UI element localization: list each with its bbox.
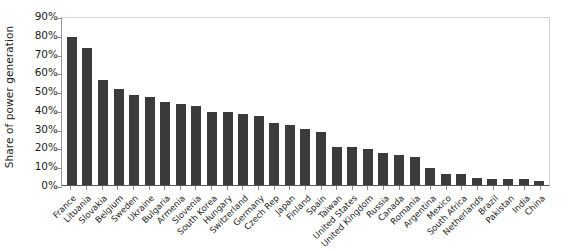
bar[interactable] [441,174,451,185]
bar-slot [438,18,454,185]
bar[interactable] [519,179,529,185]
x-axis-tick-mark [117,186,118,190]
bar-slot [111,18,127,185]
bar-slot [298,18,314,185]
y-axis-tick-mark [57,149,62,150]
bar-slot [173,18,189,185]
bar-slot [126,18,142,185]
bar-slot [189,18,205,185]
bar-slot [376,18,392,185]
bar-slot [157,18,173,185]
bar[interactable] [394,155,404,185]
bar-slot [235,18,251,185]
bar[interactable] [378,153,388,185]
x-axis-tick-mark [414,186,415,190]
bar-slot [142,18,158,185]
bar[interactable] [456,174,466,185]
x-axis-tick-mark [383,186,384,190]
bar[interactable] [503,179,513,185]
bar[interactable] [300,129,310,185]
bar-slot [329,18,345,185]
bar-slot [251,18,267,185]
bar-slot [516,18,532,185]
bar-slot [80,18,96,185]
y-axis-tick-mark [57,112,62,113]
y-axis-tick-mark [57,168,62,169]
y-axis-tick-labels: 90%80%70%60%50%40%30%20%10%0% [14,0,58,243]
y-axis-tick-label: 40% [14,105,58,116]
x-axis-tick-mark [258,186,259,190]
y-axis-tick-label: 70% [14,49,58,60]
bar[interactable] [332,147,342,185]
bar[interactable] [472,178,482,186]
bar-slot [282,18,298,185]
x-axis-tick-mark [461,186,462,190]
bar[interactable] [129,95,139,185]
bar-slot [344,18,360,185]
x-axis-tick-mark [195,186,196,190]
x-axis-tick-mark [493,186,494,190]
bar[interactable] [223,112,233,185]
y-axis-tick-label: 10% [14,161,58,172]
bar-slot [422,18,438,185]
bar[interactable] [285,125,295,185]
x-axis-tick-mark [446,186,447,190]
x-axis-tick-mark [477,186,478,190]
y-axis-tick-label: 0% [14,180,58,191]
bar[interactable] [410,157,420,185]
x-axis-tick-mark [242,186,243,190]
bar[interactable] [82,48,92,185]
bar[interactable] [67,37,77,185]
x-axis-tick-mark [211,186,212,190]
x-axis-tick-mark [274,186,275,190]
x-axis-tick-mark [524,186,525,190]
bar[interactable] [114,89,124,185]
x-axis-tick-mark [149,186,150,190]
bar[interactable] [254,116,264,185]
bar-slot [220,18,236,185]
bar-slot [469,18,485,185]
x-axis-tick-mark [102,186,103,190]
bar-slot [407,18,423,185]
bar-slot [485,18,501,185]
bar-slot [204,18,220,185]
x-axis-tick-mark [508,186,509,190]
bar[interactable] [425,168,435,185]
y-axis-tick-mark [57,56,62,57]
bar-slot [64,18,80,185]
bar[interactable] [347,147,357,185]
bar[interactable] [207,112,217,185]
y-axis-tick-mark [57,18,62,19]
bar-slot [391,18,407,185]
bar[interactable] [316,132,326,185]
bar[interactable] [363,149,373,185]
x-axis-tick-mark [289,186,290,190]
x-axis-tick-labels: FranceLituaniaSlovakiaBelgiumSwedenUkrai… [61,191,550,243]
x-axis-tick-mark [321,186,322,190]
x-axis-tick-mark [164,186,165,190]
bar-slot [360,18,376,185]
bar[interactable] [238,114,248,185]
y-axis-tick-label: 90% [14,11,58,22]
bar[interactable] [534,181,544,185]
bar-slot [313,18,329,185]
bar[interactable] [191,106,201,185]
bar-slot [267,18,283,185]
bar-series [62,18,549,185]
bar[interactable] [269,123,279,185]
x-axis-tick-mark [86,186,87,190]
x-axis-tick-mark [399,186,400,190]
bar[interactable] [487,179,497,185]
y-axis-tick-label: 30% [14,124,58,135]
bar[interactable] [176,104,186,185]
bar[interactable] [98,80,108,185]
bar-slot [531,18,547,185]
plot-area [61,17,550,186]
y-axis-tick-label: 20% [14,142,58,153]
y-axis-tick-mark [57,74,62,75]
y-axis-tick-label: 80% [14,30,58,41]
bar[interactable] [145,97,155,185]
bar[interactable] [160,102,170,185]
x-axis-tick-mark [540,186,541,190]
y-axis-tick-label: 60% [14,67,58,78]
